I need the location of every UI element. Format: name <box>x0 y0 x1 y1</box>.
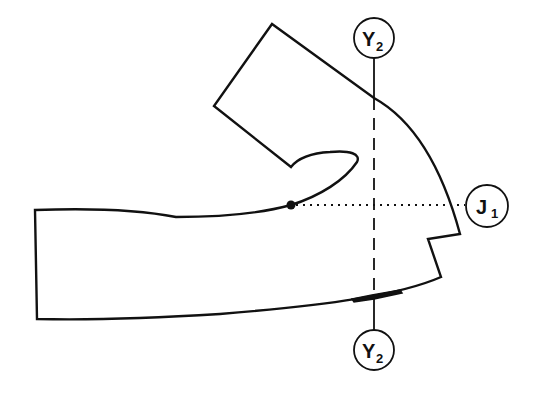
diagram-canvas: Y 2 Y 2 J 1 <box>0 0 556 393</box>
label-y2-bottom: Y 2 <box>354 330 394 370</box>
label-y2-top-sub: 2 <box>376 39 383 54</box>
pivot-dot <box>287 201 296 210</box>
marker-bar <box>352 290 402 302</box>
label-y2-top-main: Y <box>362 28 376 50</box>
label-y2-top: Y 2 <box>354 18 394 58</box>
label-j1-main: J <box>476 196 487 218</box>
limb-outline <box>35 24 460 319</box>
label-j1: J 1 <box>466 185 508 227</box>
label-j1-sub: 1 <box>491 206 498 221</box>
label-y2-bottom-main: Y <box>362 340 376 362</box>
label-y2-bottom-sub: 2 <box>376 351 383 366</box>
